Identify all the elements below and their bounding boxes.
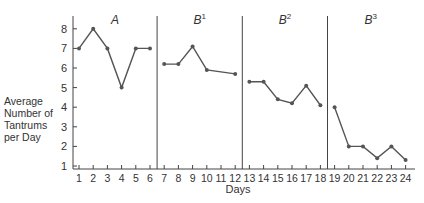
data-point <box>176 62 180 66</box>
x-tick-label: 22 <box>371 172 383 184</box>
data-point <box>134 46 138 50</box>
data-point <box>290 101 294 105</box>
y-tick-label: 1 <box>61 160 67 172</box>
data-point <box>318 103 322 107</box>
x-tick-label: 24 <box>400 172 412 184</box>
x-tick-label: 10 <box>201 172 213 184</box>
data-point <box>120 86 124 90</box>
phase-label: A <box>110 13 119 27</box>
y-tick-label: 2 <box>61 140 67 152</box>
x-tick-label: 15 <box>272 172 284 184</box>
data-point <box>304 84 308 88</box>
y-tick-label: 6 <box>61 62 67 74</box>
tantrum-chart: 1234567812345678910111213141516171819202… <box>0 0 424 203</box>
x-axis-label: Days <box>225 183 251 195</box>
data-point <box>262 80 266 84</box>
data-point <box>361 144 365 148</box>
x-tick-label: 19 <box>329 172 341 184</box>
data-line <box>249 82 320 106</box>
y-tick-label: 3 <box>61 121 67 133</box>
data-point <box>247 80 251 84</box>
data-point <box>404 158 408 162</box>
x-tick-label: 3 <box>104 172 110 184</box>
y-tick-label: 7 <box>61 42 67 54</box>
data-point <box>91 27 95 31</box>
x-tick-label: 23 <box>386 172 398 184</box>
phase-label: B1 <box>193 12 206 27</box>
x-tick-label: 4 <box>119 172 125 184</box>
data-point <box>233 72 237 76</box>
x-tick-label: 18 <box>315 172 327 184</box>
phase-label: B2 <box>279 12 292 27</box>
data-point <box>191 44 195 48</box>
data-line <box>164 46 235 73</box>
data-point <box>333 105 337 109</box>
y-tick-label: 8 <box>61 23 67 35</box>
x-tick-label: 9 <box>190 172 196 184</box>
x-tick-label: 14 <box>258 172 270 184</box>
data-point <box>162 62 166 66</box>
phase-label: B3 <box>365 12 378 27</box>
data-point <box>105 46 109 50</box>
x-tick-label: 16 <box>286 172 298 184</box>
x-tick-label: 21 <box>357 172 369 184</box>
x-tick-label: 5 <box>133 172 139 184</box>
data-point <box>148 46 152 50</box>
data-point <box>276 97 280 101</box>
y-tick-label: 5 <box>61 82 67 94</box>
data-point <box>77 46 81 50</box>
data-point <box>205 68 209 72</box>
y-tick-label: 4 <box>61 101 67 113</box>
data-point <box>375 156 379 160</box>
data-line <box>79 29 150 88</box>
x-tick-label: 2 <box>90 172 96 184</box>
x-tick-label: 1 <box>76 172 82 184</box>
x-tick-label: 8 <box>175 172 181 184</box>
data-point <box>389 144 393 148</box>
x-tick-label: 17 <box>300 172 312 184</box>
x-tick-label: 7 <box>161 172 167 184</box>
data-line <box>335 107 406 160</box>
x-tick-label: 6 <box>147 172 153 184</box>
x-tick-label: 20 <box>343 172 355 184</box>
data-point <box>347 144 351 148</box>
